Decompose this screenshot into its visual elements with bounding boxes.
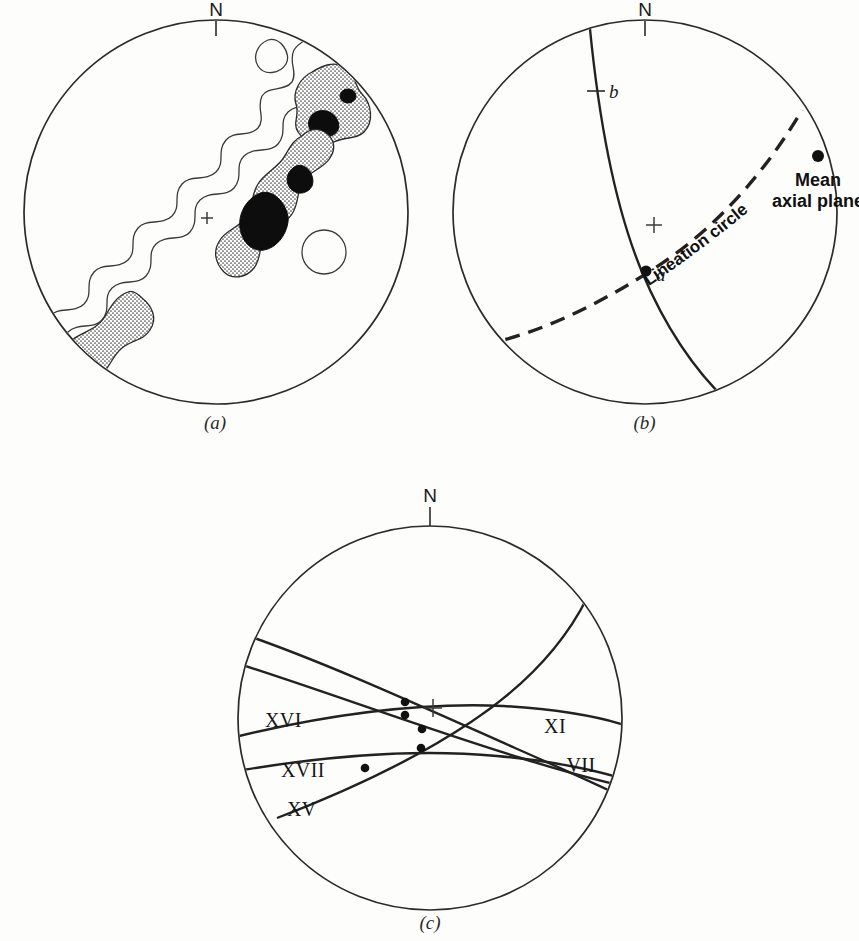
intersection-dot-5 [361, 764, 370, 773]
mean-axial-plane-pole-dot [812, 150, 824, 162]
intersection-dot-3 [418, 725, 427, 734]
panel-a-stereonet: N [0, 0, 430, 440]
intersection-dot-4 [417, 744, 426, 753]
panel-c-caption: (c) [215, 912, 645, 934]
panel-b-stereonet: N b a Lineation circle [430, 0, 859, 440]
lineation-circle-great-circle [482, 110, 802, 345]
great-circle-label-vii: VII [567, 754, 596, 776]
center-cross-b [646, 217, 662, 233]
lineation-circle-label: Lineation circle [640, 200, 751, 290]
center-cross-a [201, 212, 213, 224]
contour-island-a [302, 230, 346, 274]
north-label-a: N [209, 0, 223, 20]
great-circle-label-xvi: XVI [265, 709, 302, 731]
panel-a: N [0, 0, 430, 470]
mean-axial-plane-label-line2: axial plane [772, 191, 859, 211]
mean-axial-plane-label-line1: Mean [795, 170, 841, 190]
maximum-blob-central-main-a [240, 192, 288, 250]
north-label-b: N [638, 0, 652, 20]
contour-group-a [18, 26, 373, 383]
intersection-dot-2 [401, 711, 410, 720]
great-circle-label-xvii: XVII [281, 759, 325, 781]
great-circle-label-xv: XV [287, 798, 317, 820]
panel-c-stereonet: N [215, 480, 645, 910]
figure-root: N [0, 0, 859, 941]
maximum-dot-upper-a [340, 89, 356, 103]
primitive-circle-b [453, 20, 837, 404]
intersection-dot-1 [401, 698, 410, 707]
great-circle-label-xi: XI [544, 715, 566, 737]
contour-outer-upper-a [256, 39, 288, 72]
panel-b: N b a Lineation circle [430, 0, 859, 470]
panel-c: N [215, 480, 645, 941]
north-label-c: N [423, 485, 437, 506]
b-axis-label: b [609, 81, 619, 102]
panel-b-caption: (b) [430, 412, 859, 434]
panel-a-caption: (a) [0, 412, 430, 434]
